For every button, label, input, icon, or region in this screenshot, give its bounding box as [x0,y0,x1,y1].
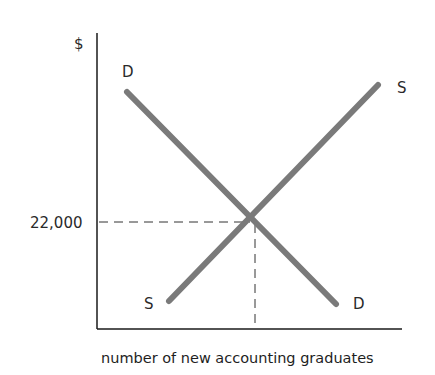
demand-label-top: D [122,63,134,81]
supply-label-top: S [397,79,407,97]
x-axis-label: number of new accounting graduates [101,350,374,366]
demand-curve [127,92,336,304]
supply-label-bottom: S [144,295,154,313]
price-tick-label: 22,000 [30,214,83,232]
supply-curve [169,85,378,301]
supply-demand-chart: $ D S 22,000 S D number of new accountin… [0,0,435,375]
demand-label-bottom: D [353,295,365,313]
y-axis-label: $ [74,35,84,53]
